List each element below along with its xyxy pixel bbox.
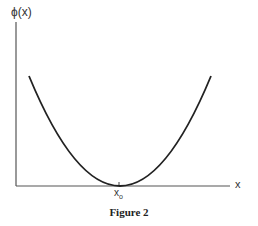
x0-label: xo	[114, 187, 123, 200]
chart-plot-area	[0, 0, 258, 226]
figure-caption: Figure 2	[0, 206, 258, 218]
x0-label-sub: o	[119, 193, 123, 200]
x-axis-label: x	[235, 178, 241, 190]
phi-curve	[29, 76, 211, 186]
y-axis-label: ϕ(x)	[11, 5, 32, 19]
